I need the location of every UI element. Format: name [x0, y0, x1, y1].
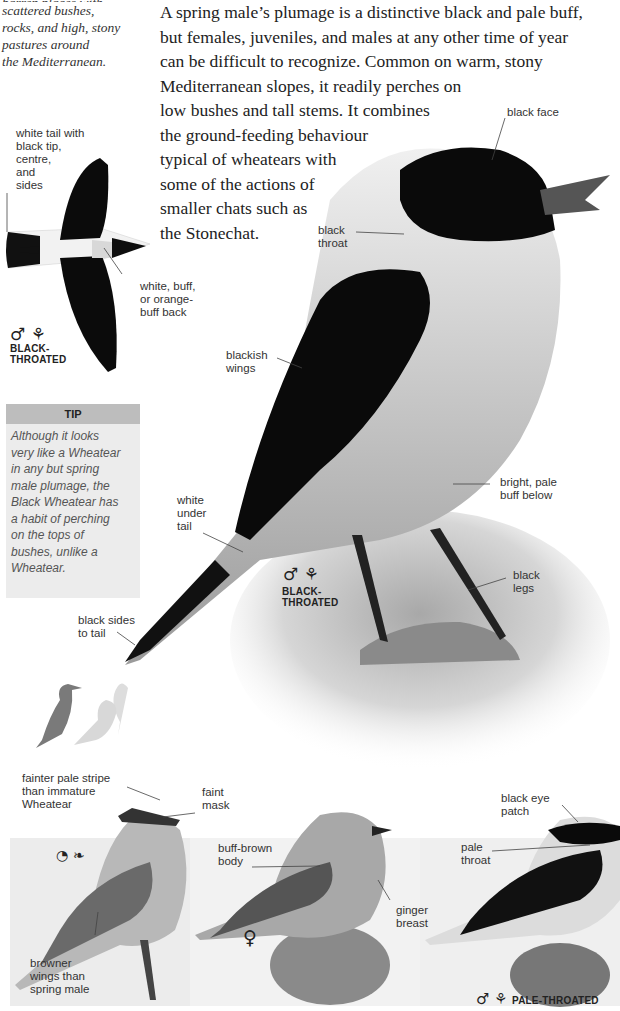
variant-tag: PALE-THROATED — [512, 995, 599, 1006]
tip-body: Although it looks very like a Wheatear i… — [6, 424, 140, 581]
female-symbol-icon: ♀ — [243, 928, 257, 946]
label-back: white, buff, or orange- buff back — [140, 280, 195, 319]
label-white-under-tail: white under tail — [177, 494, 206, 533]
label-faint-mask: faint mask — [202, 786, 229, 812]
label-black-legs: black legs — [513, 569, 540, 595]
label-tail: white tail with black tip, centre, and s… — [16, 127, 84, 192]
label-buff-brown-body: buff-brown body — [218, 842, 272, 868]
label-black-throat: black throat — [318, 224, 347, 250]
label-pale-throat: pale throat — [461, 841, 490, 867]
label-pale-buff-below: bright, pale buff below — [500, 476, 557, 502]
label-browner-wings: browner wings than spring male — [30, 957, 89, 996]
variant-tag: BLACK- THROATED — [10, 343, 66, 365]
main-bird-illustration — [125, 148, 610, 771]
label-black-face: black face — [507, 106, 559, 119]
label-ginger-breast: ginger breast — [396, 904, 428, 930]
size-silhouette-icon — [36, 683, 128, 748]
label-blackish-wings: blackish wings — [226, 349, 268, 375]
tip-box: TIP Although it looks very like a Wheate… — [6, 404, 140, 598]
male-breeding-symbol-icon: ♂ ⚘ — [476, 990, 508, 1008]
label-black-eye-patch: black eye patch — [501, 792, 550, 818]
label-fainter-stripe: fainter pale stripe than immature Wheate… — [22, 772, 110, 811]
male-breeding-symbol-icon: ♂ ⚘ — [10, 325, 46, 343]
label-black-sides: black sides to tail — [78, 614, 135, 640]
variant-tag: BLACK- THROATED — [282, 586, 338, 608]
season-symbols-icon: ◔ ❧ — [56, 846, 84, 864]
tip-heading: TIP — [6, 404, 140, 424]
male-breeding-symbol-icon: ♂ ⚘ — [283, 565, 319, 583]
